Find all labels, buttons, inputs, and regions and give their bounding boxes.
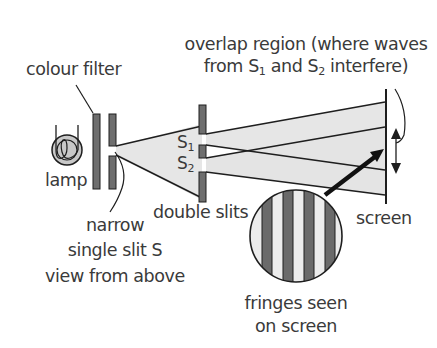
label-fringes-line2: on screen [226,316,366,337]
single-slit-lower [109,156,116,189]
label-s1: S1 [177,132,194,153]
colour-filter [93,114,100,189]
double-headed-arrow-icon [391,128,401,174]
single-slit-upper [109,114,116,146]
colour-filter-leader [76,85,93,113]
label-double-slits: double slits [153,202,248,223]
label-overlap-line2: from S1 and S2 interfere) [176,56,436,77]
label-fringes-line1: fringes seen [226,293,366,314]
label-overlap-line1: overlap region (where waves [176,34,436,55]
double-slit-middle [199,145,206,158]
lamp-icon [52,125,82,165]
label-lamp: lamp [45,170,87,191]
label-single-slit: single slit S [40,240,190,261]
double-slit-top [199,105,206,134]
double-slit-bottom [199,172,206,202]
label-colour-filter: colour filter [26,59,121,80]
label-s2: S2 [177,153,194,174]
label-screen: screen [356,208,412,229]
label-view-from-above: view from above [40,266,190,287]
